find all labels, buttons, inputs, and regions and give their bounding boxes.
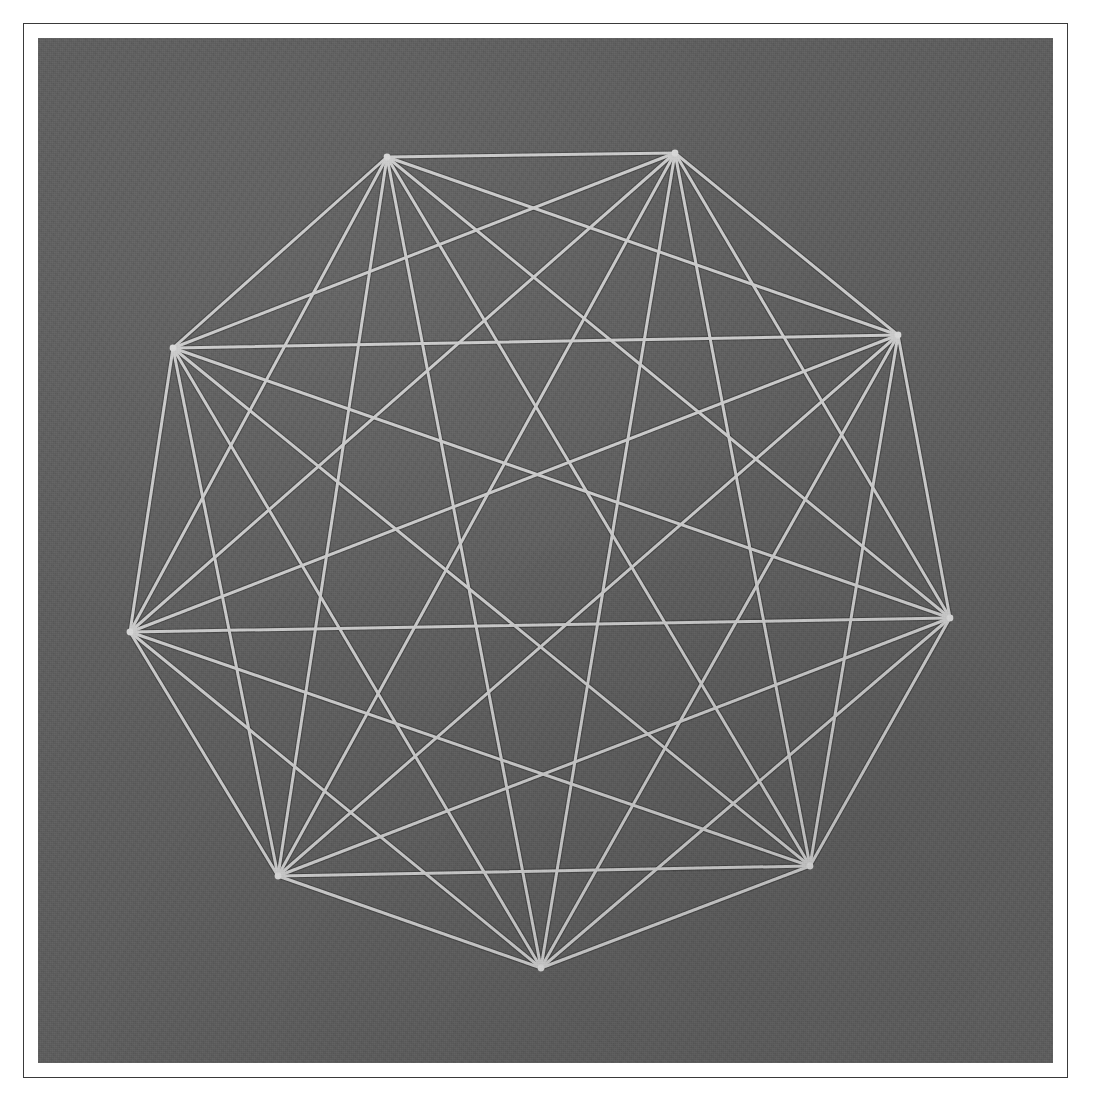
graph-edge xyxy=(278,876,541,968)
graph-plate-image xyxy=(38,38,1053,1063)
graph-edge xyxy=(387,153,675,157)
graph-edge xyxy=(173,153,675,348)
graph-vertex xyxy=(384,154,391,161)
figure-root xyxy=(0,0,1106,1102)
graph-edge xyxy=(173,157,387,348)
graph-vertex xyxy=(275,873,282,880)
graph-edge xyxy=(675,153,898,335)
graph-vertex xyxy=(895,332,902,339)
graph-edge xyxy=(278,866,810,876)
graph-vertex xyxy=(538,965,545,972)
graph-edge xyxy=(387,157,810,866)
graph-vertex xyxy=(127,629,134,636)
complete-graph-svg xyxy=(38,38,1053,1063)
graph-edge xyxy=(130,618,950,632)
graph-vertex xyxy=(947,615,954,622)
graph-edge xyxy=(541,866,810,968)
graph-vertex xyxy=(170,345,177,352)
graph-vertex xyxy=(672,150,679,157)
graph-edge-layer xyxy=(130,153,950,968)
graph-edge xyxy=(387,157,541,968)
graph-vertex xyxy=(807,863,814,870)
